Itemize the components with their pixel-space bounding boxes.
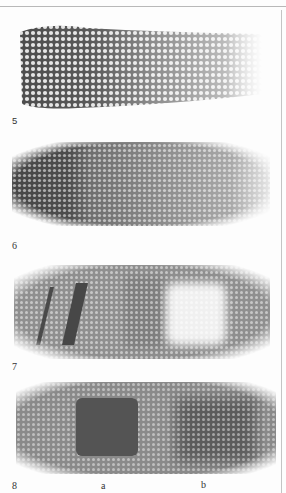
swatch-8-sublabel-a: a [101, 481, 105, 491]
top-rule-line [0, 6, 286, 7]
book-page: 5 [0, 0, 286, 493]
swatch-8-hard-and-soft-squares [16, 382, 276, 474]
swatch-7-strokes-and-lifted-square [14, 265, 270, 359]
swatch-5-hatched-gradient [18, 18, 262, 110]
swatch-8-sublabel-b: b [201, 480, 206, 490]
swatch-6-number: 6 [12, 241, 17, 251]
swatch-5-number: 5 [12, 116, 17, 126]
swatch-6-tonal-blend [12, 138, 270, 230]
right-margin-rule [281, 10, 282, 493]
swatch-7-number: 7 [12, 362, 17, 372]
swatch-8-number: 8 [12, 481, 17, 491]
